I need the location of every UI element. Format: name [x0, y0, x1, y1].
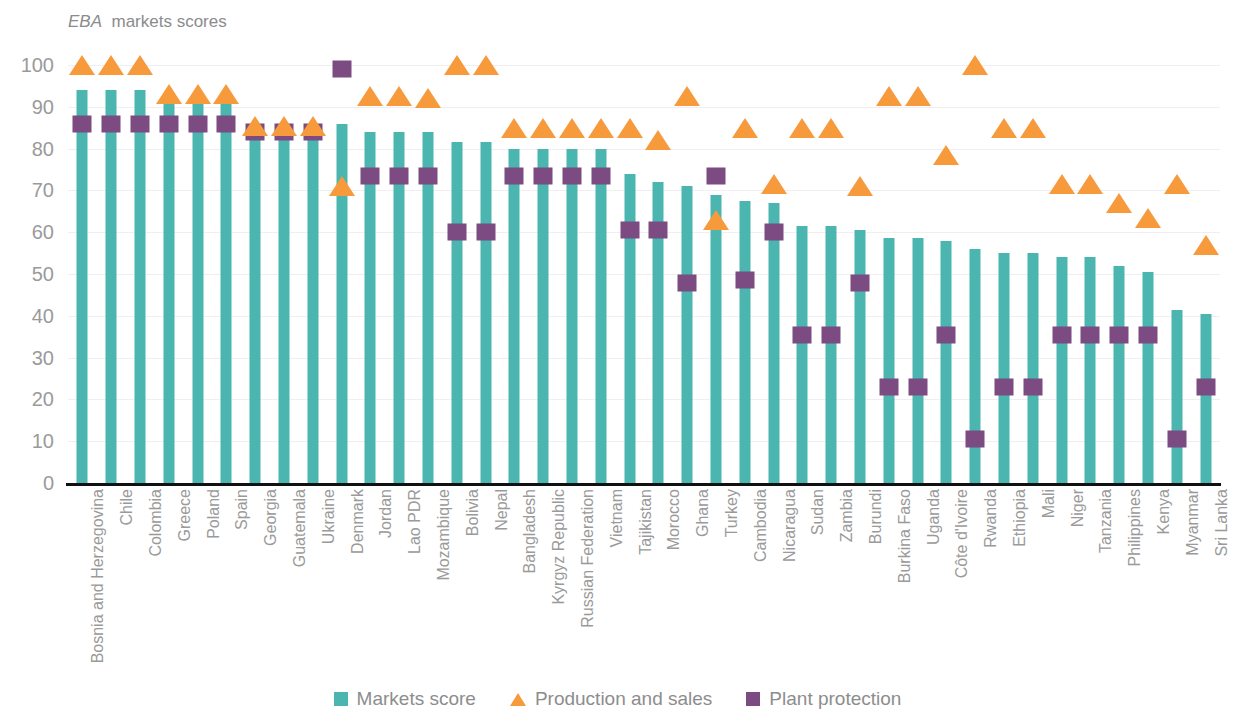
- markets-score-bar[interactable]: [192, 103, 203, 483]
- bar-group[interactable]: [97, 65, 126, 483]
- plant-protection-marker[interactable]: [706, 167, 725, 184]
- markets-score-bar[interactable]: [1114, 266, 1125, 483]
- production-and-sales-marker[interactable]: [905, 86, 931, 106]
- markets-score-bar[interactable]: [480, 142, 491, 483]
- bar-group[interactable]: [1105, 65, 1134, 483]
- markets-score-bar[interactable]: [682, 186, 693, 483]
- production-and-sales-marker[interactable]: [761, 174, 787, 194]
- bar-group[interactable]: [327, 65, 356, 483]
- bar-group[interactable]: [1047, 65, 1076, 483]
- markets-score-bar[interactable]: [854, 230, 865, 483]
- markets-score-bar[interactable]: [394, 132, 405, 483]
- bar-group[interactable]: [356, 65, 385, 483]
- plant-protection-marker[interactable]: [447, 224, 466, 241]
- markets-score-bar[interactable]: [278, 132, 289, 483]
- legend-item[interactable]: Production and sales: [510, 688, 712, 710]
- production-and-sales-marker[interactable]: [1193, 235, 1219, 255]
- production-and-sales-marker[interactable]: [501, 118, 527, 138]
- production-and-sales-marker[interactable]: [213, 84, 239, 104]
- markets-score-bar[interactable]: [595, 149, 606, 483]
- plant-protection-marker[interactable]: [908, 379, 927, 396]
- bar-group[interactable]: [1018, 65, 1047, 483]
- plant-protection-marker[interactable]: [1081, 326, 1100, 343]
- bar-group[interactable]: [212, 65, 241, 483]
- production-and-sales-marker[interactable]: [645, 130, 671, 150]
- bar-group[interactable]: [385, 65, 414, 483]
- bar-group[interactable]: [788, 65, 817, 483]
- markets-score-bar[interactable]: [1056, 257, 1067, 483]
- markets-score-bar[interactable]: [883, 238, 894, 483]
- plant-protection-marker[interactable]: [1023, 379, 1042, 396]
- plant-protection-marker[interactable]: [879, 379, 898, 396]
- plant-protection-marker[interactable]: [793, 326, 812, 343]
- markets-score-bar[interactable]: [221, 103, 232, 483]
- plant-protection-marker[interactable]: [678, 274, 697, 291]
- markets-score-bar[interactable]: [912, 238, 923, 483]
- plant-protection-marker[interactable]: [73, 115, 92, 132]
- plant-protection-marker[interactable]: [822, 326, 841, 343]
- bar-group[interactable]: [932, 65, 961, 483]
- bar-group[interactable]: [442, 65, 471, 483]
- bar-group[interactable]: [759, 65, 788, 483]
- production-and-sales-marker[interactable]: [1135, 208, 1161, 228]
- bar-group[interactable]: [990, 65, 1019, 483]
- production-and-sales-marker[interactable]: [530, 118, 556, 138]
- bar-group[interactable]: [903, 65, 932, 483]
- production-and-sales-marker[interactable]: [444, 55, 470, 75]
- plant-protection-marker[interactable]: [332, 61, 351, 78]
- bar-group[interactable]: [702, 65, 731, 483]
- markets-score-bar[interactable]: [1085, 257, 1096, 483]
- production-and-sales-marker[interactable]: [1049, 174, 1075, 194]
- markets-score-bar[interactable]: [941, 241, 952, 483]
- markets-score-bar[interactable]: [509, 149, 520, 483]
- markets-score-bar[interactable]: [1027, 253, 1038, 483]
- markets-score-bar[interactable]: [250, 132, 261, 483]
- plant-protection-marker[interactable]: [130, 115, 149, 132]
- markets-score-bar[interactable]: [422, 132, 433, 483]
- production-and-sales-marker[interactable]: [991, 118, 1017, 138]
- bar-group[interactable]: [615, 65, 644, 483]
- plant-protection-marker[interactable]: [937, 326, 956, 343]
- plant-protection-marker[interactable]: [418, 167, 437, 184]
- production-and-sales-marker[interactable]: [674, 86, 700, 106]
- production-and-sales-marker[interactable]: [1077, 174, 1103, 194]
- production-and-sales-marker[interactable]: [357, 86, 383, 106]
- plant-protection-marker[interactable]: [217, 115, 236, 132]
- bar-group[interactable]: [414, 65, 443, 483]
- markets-score-bar[interactable]: [1200, 314, 1211, 483]
- plant-protection-marker[interactable]: [476, 224, 495, 241]
- bar-group[interactable]: [298, 65, 327, 483]
- bar-group[interactable]: [183, 65, 212, 483]
- markets-score-bar[interactable]: [970, 249, 981, 483]
- plant-protection-marker[interactable]: [735, 272, 754, 289]
- production-and-sales-marker[interactable]: [300, 116, 326, 136]
- production-and-sales-marker[interactable]: [127, 55, 153, 75]
- markets-score-bar[interactable]: [710, 195, 721, 483]
- bar-group[interactable]: [961, 65, 990, 483]
- bar-group[interactable]: [558, 65, 587, 483]
- bar-group[interactable]: [500, 65, 529, 483]
- plant-protection-marker[interactable]: [159, 115, 178, 132]
- bar-group[interactable]: [1076, 65, 1105, 483]
- production-and-sales-marker[interactable]: [732, 118, 758, 138]
- legend-item[interactable]: Plant protection: [746, 688, 901, 710]
- plant-protection-marker[interactable]: [1167, 431, 1186, 448]
- plant-protection-marker[interactable]: [994, 379, 1013, 396]
- plant-protection-marker[interactable]: [102, 115, 121, 132]
- bar-group[interactable]: [730, 65, 759, 483]
- markets-score-bar[interactable]: [826, 226, 837, 483]
- production-and-sales-marker[interactable]: [156, 84, 182, 104]
- production-and-sales-marker[interactable]: [789, 118, 815, 138]
- production-and-sales-marker[interactable]: [69, 55, 95, 75]
- bar-group[interactable]: [241, 65, 270, 483]
- bar-group[interactable]: [817, 65, 846, 483]
- markets-score-bar[interactable]: [566, 149, 577, 483]
- markets-score-bar[interactable]: [739, 201, 750, 483]
- production-and-sales-marker[interactable]: [962, 55, 988, 75]
- markets-score-bar[interactable]: [1171, 310, 1182, 483]
- markets-score-bar[interactable]: [1142, 272, 1153, 483]
- production-and-sales-marker[interactable]: [473, 55, 499, 75]
- bar-group[interactable]: [471, 65, 500, 483]
- plant-protection-marker[interactable]: [1196, 379, 1215, 396]
- bar-group[interactable]: [644, 65, 673, 483]
